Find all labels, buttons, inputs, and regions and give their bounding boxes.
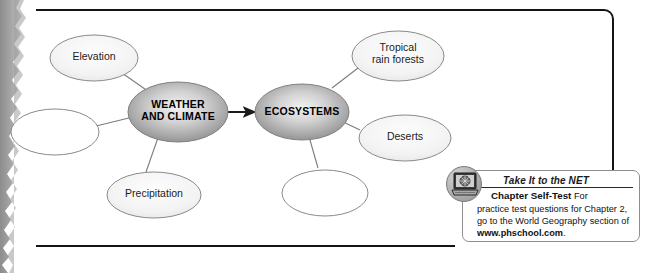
net-callout-line-3: go to the World Geography section of bbox=[477, 215, 633, 227]
net-callout-line-1: Chapter Self-Test For bbox=[477, 190, 633, 203]
worksheet-page: Elevation Precipitation Tropical rain fo… bbox=[0, 0, 650, 273]
net-callout-lead: Chapter Self-Test bbox=[491, 190, 571, 201]
net-callout-title: Take It to the NET bbox=[477, 175, 633, 188]
net-callout-url-period: . bbox=[563, 228, 566, 238]
take-it-to-the-net-callout: Take It to the NET Chapter Self-Test For… bbox=[462, 170, 640, 242]
net-callout-line-4: www.phschool.com. bbox=[477, 227, 633, 239]
net-callout-line-2: practice test questions for Chapter 2, bbox=[477, 203, 633, 215]
laptop-globe-icon bbox=[446, 166, 482, 202]
net-callout-body: Chapter Self-Test For practice test ques… bbox=[477, 190, 633, 239]
leaf-ellipses bbox=[11, 31, 451, 218]
net-callout-url[interactable]: www.phschool.com bbox=[477, 228, 563, 238]
net-callout-line1-rest: For bbox=[574, 191, 588, 201]
